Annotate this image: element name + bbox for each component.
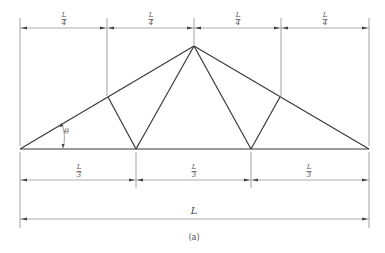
web-right-outer	[251, 97, 280, 149]
dimension-label-bottom-1: L 3	[77, 164, 82, 178]
numerator: L	[307, 164, 312, 170]
numerator: L	[77, 164, 82, 170]
overall-dimension-line	[20, 218, 369, 221]
numerator: L	[62, 12, 67, 18]
truss-members	[20, 46, 369, 149]
dimension-label-top-3: L 4	[236, 12, 241, 26]
denominator: 4	[62, 20, 66, 26]
denominator: 3	[192, 172, 196, 178]
denominator: 3	[307, 172, 311, 178]
denominator: 4	[323, 20, 327, 26]
figure-caption: (a)	[188, 233, 199, 242]
dimension-label-top-2: L 4	[149, 12, 154, 26]
web-right-inner	[194, 46, 251, 149]
dimension-label-bottom-2: L 3	[192, 164, 197, 178]
top-chord-right	[194, 46, 369, 149]
web-left-outer	[108, 97, 136, 149]
extension-lines	[20, 18, 369, 228]
angle-label: θ	[64, 127, 69, 136]
numerator: L	[236, 12, 241, 18]
numerator: L	[192, 164, 197, 170]
numerator: L	[149, 12, 154, 18]
denominator: 3	[77, 172, 81, 178]
dimension-label-top-4: L 4	[323, 12, 328, 26]
top-dimension-line	[20, 27, 369, 30]
dimension-label-top-1: L 4	[62, 12, 67, 26]
web-left-inner	[136, 46, 194, 149]
denominator: 4	[236, 20, 240, 26]
dimension-label-bottom-3: L 3	[307, 164, 312, 178]
numerator: L	[323, 12, 328, 18]
denominator: 4	[149, 20, 153, 26]
overall-span-label: L	[191, 205, 198, 216]
